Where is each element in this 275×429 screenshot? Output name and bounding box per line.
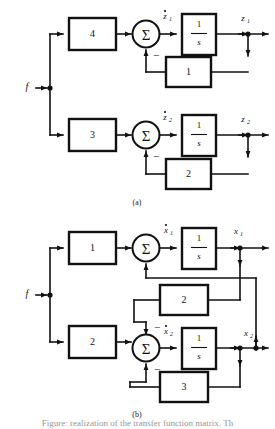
signal-label-xdot2-subscript: 2 bbox=[170, 331, 173, 337]
summer-a-bottom-symbol: Σ bbox=[142, 128, 151, 144]
summer-a-top-symbol: Σ bbox=[142, 27, 151, 43]
signal-label-x2: x bbox=[243, 328, 248, 338]
integrator-b-top-numerator: 1 bbox=[197, 233, 202, 243]
signal-label-z2-subscript: 2 bbox=[247, 119, 250, 125]
integrator-b-bottom-denominator: s bbox=[197, 351, 201, 361]
input-label-f-b: f bbox=[26, 288, 30, 299]
gain-block-4-label: 4 bbox=[90, 28, 95, 39]
gain-block-2-b-label: 2 bbox=[90, 336, 95, 347]
signal-label-z1: z bbox=[240, 13, 245, 23]
feedback-block-3-b-label: 3 bbox=[182, 381, 187, 392]
input-label-f-a: f bbox=[26, 81, 30, 92]
figure-bottom-caption: Figure: realization of the transfer func… bbox=[0, 418, 275, 429]
integrator-a-bottom-numerator: 1 bbox=[197, 120, 202, 130]
zdot1-dot-accent bbox=[164, 10, 166, 12]
signal-label-xdot1-subscript: 1 bbox=[170, 230, 173, 236]
feedback-block-2-a-label: 2 bbox=[186, 168, 191, 179]
signal-label-x1-subscript: 1 bbox=[240, 231, 243, 237]
integrator-b-top-denominator: s bbox=[197, 251, 201, 261]
caption-a: (a) bbox=[133, 198, 142, 207]
xdot2-dot-accent bbox=[165, 325, 167, 327]
x2-riser-junction-dot bbox=[253, 345, 258, 350]
zdot2-dot-accent bbox=[164, 111, 166, 113]
signal-label-z1-subscript: 1 bbox=[247, 18, 250, 24]
block-diagram-b: f 1 Σ x 1 1 s x 1 bbox=[0, 210, 275, 422]
gain-block-3-label: 3 bbox=[90, 129, 95, 140]
summer-b-bottom-minus-top: − bbox=[154, 321, 160, 333]
block-diagram-a: f 4 Σ − z 1 1 s z 1 bbox=[0, 0, 275, 210]
integrator-a-top-denominator: s bbox=[197, 37, 201, 47]
signal-label-xdot1: x bbox=[163, 225, 168, 235]
integrator-a-top-numerator: 1 bbox=[197, 19, 202, 29]
signal-label-z2: z bbox=[240, 114, 245, 124]
summer-a-top-minus-sign: − bbox=[153, 49, 159, 61]
signal-label-zdot2-subscript: 2 bbox=[169, 117, 172, 123]
integrator-b-bottom-numerator: 1 bbox=[197, 333, 202, 343]
gain-block-1-b-label: 1 bbox=[90, 242, 95, 253]
input-junction-dot-a bbox=[47, 85, 52, 90]
integrator-a-bottom-denominator: s bbox=[197, 138, 201, 148]
signal-label-zdot2: z bbox=[162, 112, 167, 122]
summer-b-bottom-symbol: Σ bbox=[142, 341, 151, 357]
input-junction-dot-b bbox=[47, 292, 52, 297]
xdot1-dot-accent bbox=[165, 224, 167, 226]
signal-label-zdot1-subscript: 1 bbox=[169, 16, 172, 22]
signal-label-x1: x bbox=[233, 226, 238, 236]
summer-b-top-symbol: Σ bbox=[142, 241, 151, 257]
feedback-block-1-a-label: 1 bbox=[186, 66, 191, 77]
signal-label-x2-subscript: 2 bbox=[250, 333, 253, 339]
summer-a-bottom-minus-sign: − bbox=[153, 150, 159, 162]
signal-label-zdot1: z bbox=[162, 11, 167, 21]
cross-feedback-block-2-b-label: 2 bbox=[182, 294, 187, 305]
signal-label-xdot2: x bbox=[163, 326, 168, 336]
